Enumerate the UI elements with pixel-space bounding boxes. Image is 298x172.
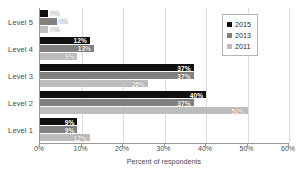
y-axis-label-level-1: Level 1 (8, 126, 33, 135)
legend-item-2011[interactable]: 2011 (227, 41, 251, 51)
legend-label: 2013 (235, 31, 251, 40)
legend-label: 2015 (235, 20, 251, 29)
legend-item-2015[interactable]: 2015 (227, 19, 251, 29)
y-axis-label-level-4: Level 4 (8, 44, 33, 53)
tick-mark (81, 144, 82, 147)
gridline (289, 8, 290, 143)
legend-swatch-icon (227, 33, 232, 38)
y-axis-label-level-5: Level 5 (8, 17, 33, 26)
legend-label: 2011 (235, 42, 250, 51)
y-axis-label-level-3: Level 3 (8, 72, 33, 81)
bar-chart: Level 5Level 4Level 3Level 2Level 1 2%4%… (0, 0, 298, 172)
tick-mark (122, 144, 123, 147)
tick-mark (288, 144, 289, 147)
legend-item-2013[interactable]: 2013 (227, 30, 251, 40)
legend-swatch-icon (227, 44, 232, 49)
chart-legend: 201520132011 (222, 14, 258, 56)
tick-mark (164, 144, 165, 147)
tick-mark (247, 144, 248, 147)
y-axis-labels: Level 5Level 4Level 3Level 2Level 1 (0, 8, 36, 144)
tick-mark (39, 144, 40, 147)
x-axis-title: Percent of respondents (39, 157, 289, 166)
y-axis-label-level-2: Level 2 (8, 99, 33, 108)
tick-mark (205, 144, 206, 147)
legend-swatch-icon (227, 22, 232, 27)
